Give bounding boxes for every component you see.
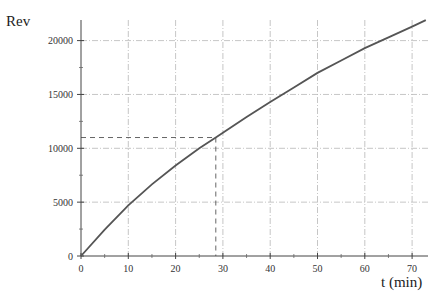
revenue-curve (81, 20, 426, 256)
x-tick-label: 70 (407, 263, 417, 274)
x-tick-label: 50 (313, 263, 323, 274)
tick-labels: 01020304050607005000100001500020000 (48, 35, 417, 274)
revenue-chart: 01020304050607005000100001500020000 Rev … (0, 0, 445, 300)
tick-marks (77, 41, 412, 259)
x-axis-title: t (min) (381, 274, 422, 291)
x-tick-label: 10 (123, 263, 133, 274)
y-tick-label: 10000 (48, 143, 73, 154)
x-tick-label: 60 (360, 263, 370, 274)
y-axis-title: Rev (6, 13, 31, 29)
annotation-guides (81, 138, 216, 256)
x-tick-label: 40 (265, 263, 275, 274)
y-tick-label: 0 (68, 251, 73, 262)
x-tick-label: 30 (218, 263, 228, 274)
x-tick-label: 20 (171, 263, 181, 274)
y-tick-label: 20000 (48, 35, 73, 46)
y-tick-label: 5000 (53, 197, 73, 208)
grid-lines (81, 20, 428, 256)
x-tick-label: 0 (79, 263, 84, 274)
axes (81, 20, 428, 256)
y-tick-label: 15000 (48, 89, 73, 100)
